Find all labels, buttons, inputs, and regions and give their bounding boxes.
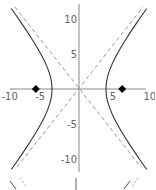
y-tick-label: -5 [67, 119, 77, 130]
x-tick-label: -5 [35, 91, 45, 102]
x-tick-label: 5 [110, 91, 116, 102]
x-tick-label: -10 [2, 91, 18, 102]
y-tick-label: -10 [61, 154, 77, 165]
hyperbola-plot: -10-5510105-5-10 [0, 0, 155, 190]
y-tick-label: 5 [71, 49, 77, 60]
focus-diamond-icon [118, 85, 126, 93]
fragment-dash-left [20, 178, 26, 186]
fragment-solid-right [124, 181, 130, 189]
fragment-solid-left [10, 181, 16, 189]
x-tick-label: 10 [144, 91, 156, 102]
y-tick-label: 10 [64, 14, 77, 25]
fragment-dash-right [132, 178, 138, 186]
